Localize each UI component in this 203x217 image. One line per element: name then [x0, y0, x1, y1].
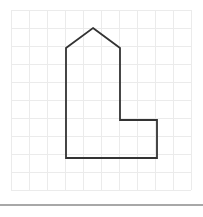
- figure-svg: [0, 0, 203, 217]
- bottom-divider: [0, 204, 203, 206]
- shape-canvas: [0, 0, 203, 217]
- grid-layer: [11, 10, 192, 191]
- house-shape-outline: [66, 28, 157, 158]
